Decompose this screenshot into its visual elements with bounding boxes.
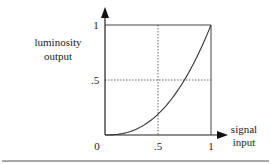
x-tick-half: .5	[154, 140, 163, 152]
x-label-line2: input	[233, 136, 256, 148]
y-tick-1: 1	[93, 19, 99, 31]
y-tick-half: .5	[91, 74, 100, 86]
x-tick-0: 0	[94, 140, 100, 152]
x-label-line1: signal	[231, 123, 257, 135]
x-tick-1: 1	[208, 140, 214, 152]
x-axis-arrow-icon	[217, 131, 228, 139]
y-label-line2: output	[44, 50, 72, 62]
y-axis-arrow-icon	[101, 7, 109, 18]
gamma-chart: 1 .5 0 .5 1 luminosity output signal inp…	[0, 0, 271, 164]
y-label-line1: luminosity	[34, 36, 82, 48]
